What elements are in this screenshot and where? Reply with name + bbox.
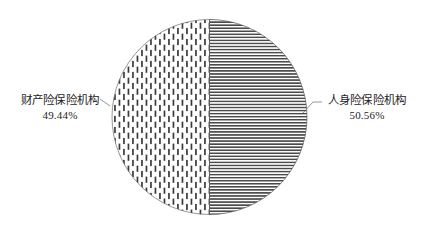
pie-slice-life-insurance-fill: [210, 20, 308, 215]
pie-label-life-insurance-value: 50.56%: [315, 108, 419, 122]
pie-slice-life-insurance: [210, 20, 308, 215]
pie-label-life-insurance: 人身险保险机构 50.56%: [315, 93, 419, 122]
pie-label-life-insurance-name: 人身险保险机构: [315, 93, 419, 108]
pie-label-property-insurance-value: 49.44%: [8, 108, 112, 122]
pie-label-property-insurance: 财产险保险机构 49.44%: [8, 93, 112, 122]
pie-slice-property-insurance: [112, 20, 209, 215]
pie-slice-property-insurance-fill: [112, 20, 209, 215]
pie-label-property-insurance-name: 财产险保险机构: [8, 93, 112, 108]
pie-chart-figure: 财产险保险机构 49.44% 人身险保险机构 50.56%: [0, 0, 431, 234]
